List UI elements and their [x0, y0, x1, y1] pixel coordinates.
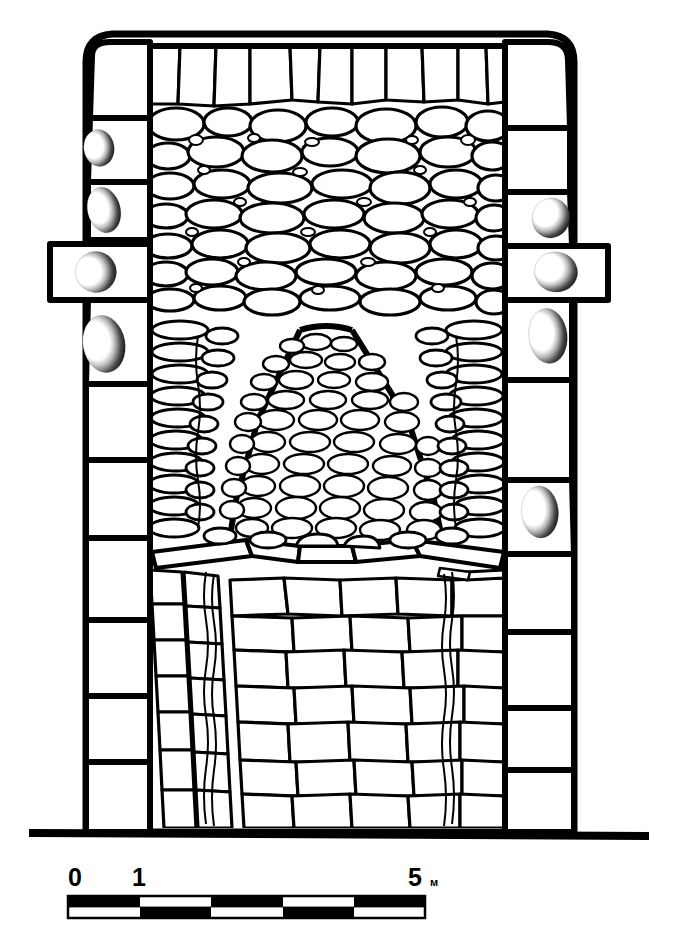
right-quoin-block — [505, 632, 574, 708]
scale-unit-label: м — [430, 876, 438, 888]
right-quoin-block — [505, 128, 570, 192]
left-quoin-block — [86, 384, 150, 460]
left-quoin-block — [90, 42, 150, 118]
right-quoin-block — [505, 42, 570, 128]
scale-label-0: 0 — [68, 863, 82, 891]
interior-masonry — [144, 46, 514, 828]
left-quoin-block — [86, 460, 150, 538]
top-header-course — [150, 46, 505, 106]
scale-label-1: 1 — [132, 863, 146, 891]
left-quoin-block — [86, 696, 150, 762]
lower-blocky-masonry — [150, 568, 504, 828]
figure-page: 0 1 5 м — [0, 0, 674, 937]
left-quoin-block — [86, 620, 150, 696]
right-quoin-block — [505, 708, 574, 770]
right-quoin-block — [505, 770, 574, 832]
right-quoin-column — [505, 42, 608, 832]
niche-infill-upper — [220, 334, 442, 540]
right-quoin-block — [505, 380, 572, 480]
scale-bar: 0 1 5 м — [68, 863, 438, 918]
stone-structure-drawing: 0 1 5 м — [0, 0, 674, 937]
scale-bar-body — [68, 896, 425, 918]
right-quoin-block — [505, 554, 574, 632]
left-quoin-block — [86, 762, 150, 832]
scale-label-5: 5 — [408, 863, 422, 891]
left-quoin-block — [86, 538, 150, 620]
ground-line — [33, 833, 645, 836]
